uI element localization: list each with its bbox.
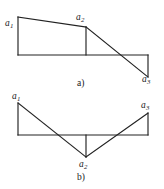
panel-a-label-a2: a2: [76, 13, 84, 23]
panel-b-graphic: [18, 103, 148, 157]
panel-a-label-a3: a3: [142, 75, 150, 85]
panel-a-label-a3-subscript: 3: [147, 78, 150, 85]
panel-b-label-a2-subscript: 2: [84, 163, 87, 170]
panel-b-label-a3-subscript: 3: [146, 104, 149, 111]
panel-a-top-slope-second-step: [86, 27, 148, 77]
panel-b-descending-slope: [18, 103, 86, 157]
panel-b-label-a3: a3: [141, 101, 149, 111]
panel-b-label-a2: a2: [79, 160, 87, 170]
panel-a-caption: a): [77, 79, 84, 89]
panel-b-label-a1-subscript: 1: [17, 95, 20, 102]
panel-b-caption: b): [77, 173, 85, 183]
panel-a-label-a2-subscript: 2: [81, 16, 84, 23]
panel-a-label-a1-subscript: 1: [10, 22, 13, 29]
figure-root: a1 a2 a3 a) a1 a2 a3 b): [0, 0, 164, 189]
panel-a-graphic: [18, 17, 148, 77]
panel-a-label-a1: a1: [5, 19, 13, 29]
panel-b-label-a1: a1: [12, 92, 20, 102]
